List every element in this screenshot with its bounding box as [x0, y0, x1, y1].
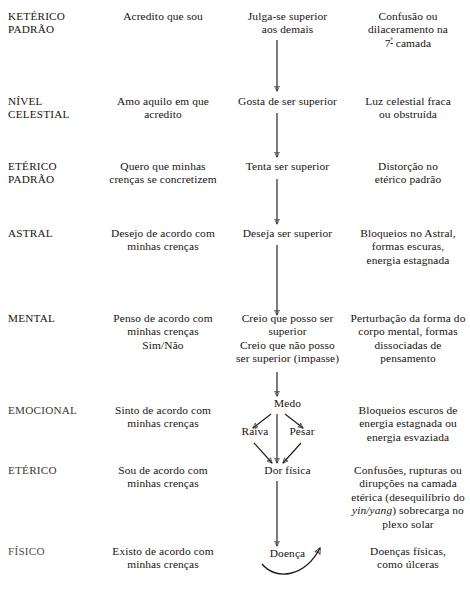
node-pesar: Pesar [278, 425, 326, 438]
result-text-celestial: Luz celestial fraca ou obstruída [348, 95, 468, 122]
node-doenca: Doença [225, 547, 350, 560]
belief-text-ketherico: Acredito que sou [98, 10, 228, 23]
level-line-2: PADRÃO [8, 23, 104, 36]
result-text-fisico: Doenças físicas, como úlceras [348, 545, 468, 572]
result-line-2: etérico padrão [348, 173, 468, 186]
result-line-2: energia estagnada ou [348, 417, 468, 430]
effect-line-4: ser superior (impasse) [225, 352, 350, 365]
result-line-3: energia esvaziada [348, 431, 468, 444]
effect-line-1: Creio que posso ser [225, 312, 350, 325]
effect-line-3: Creio que não posso [225, 339, 350, 352]
result-text-mental: Perturbação da forma do corpo mental, fo… [348, 312, 468, 366]
result-line-4: yin/yang) sobrecarga no [348, 504, 468, 517]
level-label-fisico: FÍSICO [8, 545, 104, 558]
effect-text-astral: Deseja ser superior [225, 227, 350, 240]
node-raiva: Raiva [232, 425, 278, 438]
level-label-astral: ASTRAL [8, 227, 104, 240]
result-text-emocional: Bloqueios escuros de energia estagnada o… [348, 404, 468, 444]
result-text-eterico: Confusões, rupturas ou dirupções na cama… [348, 464, 468, 531]
result-line-1: Bloqueios no Astral, [348, 227, 468, 240]
result-line-1: Luz celestial fraca [348, 95, 468, 108]
effect-line-1: Tenta ser superior [225, 160, 350, 173]
result-line-1: Distorção no [348, 160, 468, 173]
result-text-astral: Bloqueios no Astral, formas escuras, ene… [348, 227, 468, 267]
result-line-2: corpo mental, formas [348, 325, 468, 338]
belief-text-fisico: Existo de acordo com minhas crenças [98, 545, 228, 572]
level-line-1: ASTRAL [8, 227, 104, 240]
belief-line-1: Quero que minhas [98, 160, 228, 173]
result-line-5: plexo solar [348, 518, 468, 531]
effect-text-eterico-dor-fisica: Dor física [225, 464, 350, 477]
result-line-2: formas escuras, [348, 240, 468, 253]
effect-line-1: Julga-se superior [225, 10, 350, 23]
effect-text-celestial: Gosta de ser superior [225, 95, 350, 108]
level-line-1: EMOCIONAL [8, 404, 104, 417]
belief-line-1: Penso de acordo com [98, 312, 228, 325]
belief-line-1: Sinto de acordo com [98, 404, 228, 417]
result-line-2: ou obstruída [348, 108, 468, 121]
ordinal-rest: camada [393, 37, 431, 49]
level-label-ketherico-padrao: KETÉRICO PADRÃO [8, 10, 104, 36]
yin-yang-italic: yin/yang [352, 504, 392, 516]
belief-text-celestial: Amo aquilo em que acredito [98, 95, 228, 122]
belief-line-3: Sim/Não [98, 339, 228, 352]
effect-text-fisico-doenca: Doença [225, 547, 350, 560]
belief-text-eterico: Sou de acordo com minhas crenças [98, 464, 228, 491]
level-line-1: NÍVEL [8, 95, 104, 108]
belief-line-2: minhas crenças [98, 325, 228, 338]
belief-text-astral: Desejo de acordo com minhas crenças [98, 227, 228, 254]
arrow-raiva-to-dor-fisica [254, 443, 272, 463]
belief-line-2: acredito [98, 108, 228, 121]
level-line-1: ETÉRICO [8, 464, 104, 477]
result-line-4: pensamento [348, 352, 468, 365]
level-label-eterico: ETÉRICO [8, 464, 104, 477]
result-line-1: Bloqueios escuros de [348, 404, 468, 417]
node-medo: Medo [225, 397, 350, 410]
effect-line-2: superior [225, 325, 350, 338]
belief-text-eterico-padrao: Quero que minhas crenças se concretizem [98, 160, 228, 187]
belief-line-1: Desejo de acordo com [98, 227, 228, 240]
result-line-2: dilaceramento na [348, 23, 468, 36]
level-line-1: MENTAL [8, 312, 104, 325]
result-line-1: Perturbação da forma do [348, 312, 468, 325]
arrow-pesar-to-dor-fisica [283, 443, 301, 463]
result-line-2: dirupções na camada [348, 477, 468, 490]
belief-line-1: Amo aquilo em que [98, 95, 228, 108]
level-label-emocional: EMOCIONAL [8, 404, 104, 417]
result-line-3: 7ª camada [348, 37, 468, 50]
level-line-2: PADRÃO [8, 173, 104, 186]
belief-line-2: crenças se concretizem [98, 173, 228, 186]
level-label-eterico-padrao: ETÉRICO PADRÃO [8, 160, 104, 186]
result-line-2: como úlceras [348, 558, 468, 571]
belief-line-2: minhas crenças [98, 558, 228, 571]
effect-line-1: Deseja ser superior [225, 227, 350, 240]
belief-line-1: Acredito que sou [98, 10, 228, 23]
level-line-1: KETÉRICO [8, 10, 104, 23]
level-label-nivel-celestial: NÍVEL CELESTIAL [8, 95, 104, 121]
belief-line-1: Sou de acordo com [98, 464, 228, 477]
belief-text-emocional: Sinto de acordo com minhas crenças [98, 404, 228, 431]
yin-yang-rest: ) sobrecarga no [392, 504, 464, 516]
effect-line-1: Gosta de ser superior [225, 95, 350, 108]
result-line-3: energia estagnada [348, 254, 468, 267]
belief-line-2: minhas crenças [98, 240, 228, 253]
level-line-1: FÍSICO [8, 545, 104, 558]
result-text-eterico-padrao: Distorção no etérico padrão [348, 160, 468, 187]
level-label-mental: MENTAL [8, 312, 104, 325]
result-line-1: Doenças físicas, [348, 545, 468, 558]
belief-line-2: minhas crenças [98, 477, 228, 490]
level-line-1: ETÉRICO [8, 160, 104, 173]
belief-text-mental: Penso de acordo com minhas crenças Sim/N… [98, 312, 228, 352]
effect-text-eterico-padrao: Tenta ser superior [225, 160, 350, 173]
result-line-1: Confusão ou [348, 10, 468, 23]
node-dor-fisica: Dor física [225, 464, 350, 477]
result-line-3: etérica (desequilíbrio do [348, 491, 468, 504]
effect-text-emocional-medo: Medo [225, 397, 350, 410]
result-line-1: Confusões, rupturas ou [348, 464, 468, 477]
result-line-3: dissociadas de [348, 339, 468, 352]
effect-text-ketherico: Julga-se superior aos demais [225, 10, 350, 37]
belief-line-1: Existo de acordo com [98, 545, 228, 558]
effect-line-2: aos demais [225, 23, 350, 36]
effect-text-mental: Creio que posso ser superior Creio que n… [225, 312, 350, 366]
result-text-ketherico: Confusão ou dilaceramento na 7ª camada [348, 10, 468, 50]
